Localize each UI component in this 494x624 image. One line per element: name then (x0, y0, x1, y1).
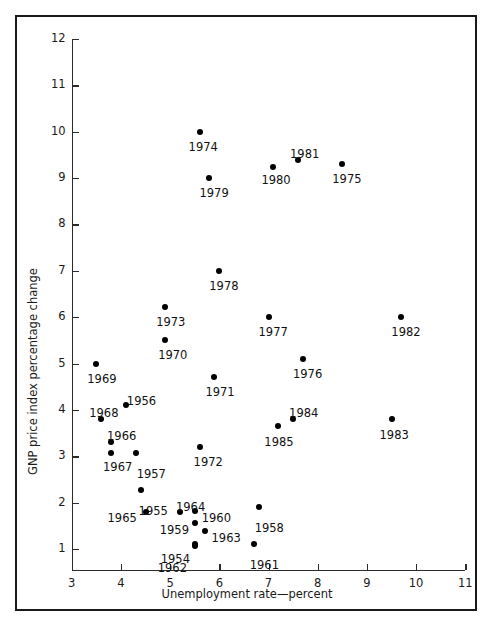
data-point-label-1972: 1972 (194, 457, 223, 469)
y-tick-label-5: 5 (36, 358, 66, 370)
y-tick-2 (73, 503, 79, 504)
y-tick-10 (73, 132, 79, 133)
y-tick-label-8: 8 (36, 218, 66, 230)
data-point-1979[interactable] (206, 175, 212, 181)
y-tick-11 (73, 85, 79, 86)
data-point-1957[interactable] (133, 450, 139, 456)
y-tick-label-1: 1 (36, 543, 66, 555)
x-tick-6 (219, 564, 220, 570)
data-point-label-1973: 1973 (156, 317, 185, 329)
data-point-label-1977: 1977 (259, 327, 288, 339)
data-point-1958[interactable] (256, 504, 262, 510)
data-point-label-1965: 1965 (108, 513, 137, 525)
scatter-plot: 12345678910111234567891011Unemployment r… (0, 0, 494, 624)
x-tick-9 (367, 564, 368, 570)
data-point-label-1976: 1976 (293, 369, 322, 381)
data-point-label-1982: 1982 (391, 327, 420, 339)
data-point-label-1985: 1985 (264, 437, 293, 449)
data-point-label-1980: 1980 (261, 175, 290, 187)
data-point-label-1957: 1957 (137, 469, 166, 481)
data-point-label-1974: 1974 (189, 142, 218, 154)
data-point-1974[interactable] (197, 129, 203, 135)
data-point-1959[interactable] (192, 520, 198, 526)
y-axis-line (72, 39, 73, 570)
x-tick-label-11: 11 (450, 578, 480, 590)
data-point-1967[interactable] (108, 450, 114, 456)
data-point-1977[interactable] (266, 314, 272, 320)
data-point-1973[interactable] (162, 304, 168, 310)
x-tick-8 (318, 564, 319, 570)
data-point-label-1967: 1967 (103, 462, 132, 474)
y-tick-3 (73, 456, 79, 457)
data-point-label-1984: 1984 (289, 408, 318, 420)
data-point-label-1959: 1959 (160, 525, 189, 537)
data-point-1955[interactable] (138, 487, 144, 493)
data-point-1982[interactable] (398, 314, 404, 320)
x-tick-11 (465, 564, 466, 570)
data-point-label-1979: 1979 (199, 188, 228, 200)
y-tick-1 (73, 549, 79, 550)
x-tick-10 (416, 564, 417, 570)
data-point-label-1969: 1969 (87, 374, 116, 386)
data-point-label-1970: 1970 (158, 350, 187, 362)
data-point-label-1962: 1962 (158, 563, 187, 575)
data-point-label-1961: 1961 (250, 560, 279, 572)
data-point-label-1968: 1968 (89, 408, 118, 420)
data-point-label-1983: 1983 (380, 430, 409, 442)
x-tick-label-9: 9 (352, 578, 382, 590)
data-point-label-1978: 1978 (209, 281, 238, 293)
y-tick-8 (73, 224, 79, 225)
data-point-1962[interactable] (192, 543, 198, 549)
data-point-1985[interactable] (275, 423, 281, 429)
y-tick-label-11: 11 (36, 79, 66, 91)
x-tick-label-10: 10 (401, 578, 431, 590)
y-tick-4 (73, 410, 79, 411)
y-tick-label-9: 9 (36, 172, 66, 184)
y-tick-6 (73, 317, 79, 318)
data-point-1972[interactable] (197, 444, 203, 450)
y-tick-label-3: 3 (36, 450, 66, 462)
data-point-1975[interactable] (339, 161, 345, 167)
y-tick-label-10: 10 (36, 126, 66, 138)
y-tick-label-4: 4 (36, 404, 66, 416)
y-tick-7 (73, 271, 79, 272)
y-tick-label-2: 2 (36, 497, 66, 509)
data-point-1976[interactable] (300, 356, 306, 362)
y-tick-label-6: 6 (36, 311, 66, 323)
data-point-label-1958: 1958 (255, 523, 284, 535)
figure-canvas: 12345678910111234567891011Unemployment r… (0, 0, 494, 624)
data-point-label-1981: 1981 (290, 149, 319, 161)
data-point-1965[interactable] (143, 509, 149, 515)
data-point-1983[interactable] (389, 416, 395, 422)
x-tick-label-3: 3 (57, 578, 87, 590)
y-tick-9 (73, 178, 79, 179)
x-tick-label-4: 4 (106, 578, 136, 590)
data-point-1970[interactable] (162, 337, 168, 343)
data-point-1963[interactable] (202, 528, 208, 534)
y-axis-title: GNP price index percentage change (28, 268, 40, 475)
data-point-1971[interactable] (211, 374, 217, 380)
data-point-label-1971: 1971 (205, 387, 234, 399)
data-point-label-1975: 1975 (332, 174, 361, 186)
data-point-label-1956: 1956 (127, 396, 156, 408)
data-point-label-1964: 1964 (176, 502, 205, 514)
x-axis-title: Unemployment rate—percent (0, 589, 494, 601)
x-tick-3 (72, 564, 73, 570)
x-tick-4 (121, 564, 122, 570)
data-point-1961[interactable] (251, 541, 257, 547)
data-point-1978[interactable] (216, 268, 222, 274)
data-point-1980[interactable] (270, 164, 276, 170)
y-tick-5 (73, 364, 79, 365)
y-tick-label-7: 7 (36, 265, 66, 277)
data-point-label-1960: 1960 (202, 513, 231, 525)
data-point-1969[interactable] (93, 361, 99, 367)
data-point-label-1966: 1966 (107, 431, 136, 443)
y-tick-label-12: 12 (36, 33, 66, 45)
data-point-label-1963: 1963 (212, 533, 241, 545)
y-tick-12 (73, 39, 79, 40)
